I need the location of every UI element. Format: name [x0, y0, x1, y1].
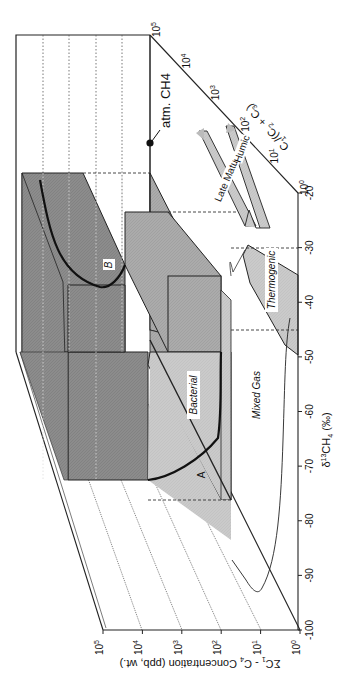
svg-text:ΣC1 - C4 Concentration (ppb, w: ΣC1 - C4 Concentration (ppb, wt.): [120, 656, 281, 670]
bacterial-box-front: [168, 276, 221, 352]
y-tick-label: 102: [211, 640, 223, 655]
y-axis-title: ΣC1 - C4 Concentration (ppb, wt.): [120, 656, 281, 670]
gas-source-diagram: atm. CH4 100101102103104105 C1/(C2 + C3)…: [0, 0, 346, 689]
z-tick-label: 104: [180, 53, 192, 68]
x-tick-label: -100: [304, 620, 315, 640]
label-bacterial: Bacterial: [187, 371, 200, 419]
thermo-box-front-face: [68, 352, 148, 480]
x-axis-ticks: -20-30-40-50-60-70-80-90-100: [298, 185, 315, 640]
y-tick-label: 101: [251, 640, 263, 655]
thermogenic-connector: [230, 250, 245, 276]
thermo-box-right-face: [20, 352, 68, 480]
y-tick-label: 104: [132, 640, 144, 655]
x-axis-title: δ13CH4 (‰): [320, 412, 334, 467]
atm-ch4-leader: [152, 130, 160, 141]
svg-text:B: B: [103, 261, 114, 268]
mixed-gas-curve: [232, 318, 290, 592]
x-tick-label: -60: [304, 404, 315, 419]
thermo-box-mid-face: [68, 285, 125, 352]
atm-ch4-label: atm. CH4: [158, 73, 173, 128]
x-tick-label: -90: [304, 568, 315, 583]
x-tick-label: -30: [304, 240, 315, 255]
z-tick-label: 105: [150, 22, 162, 37]
x-tick-label: -40: [304, 295, 315, 310]
x-tick-label: -50: [304, 349, 315, 364]
y-axis-ticks: 100101102103104105: [93, 630, 302, 655]
svg-text:Thermogenic: Thermogenic: [266, 251, 277, 309]
svg-text:Bacterial: Bacterial: [188, 375, 199, 415]
y-tick-label: 105: [93, 640, 105, 655]
x-tick-label: -20: [304, 185, 315, 200]
late-mature-arrowhead: [196, 128, 204, 140]
z-tick-label: 102: [239, 117, 251, 132]
y-tick-label: 103: [172, 640, 184, 655]
label-curve-b: B: [103, 259, 115, 270]
z-tick-label: 103: [209, 85, 221, 100]
label-thermogenic: Thermogenic: [265, 248, 278, 312]
label-curve-a: A: [196, 471, 207, 478]
svg-text:Mixed Gas: Mixed Gas: [251, 371, 262, 419]
thermogenic-region: [230, 245, 298, 355]
y-tick-label: 100: [290, 640, 302, 655]
x-tick-label: -70: [304, 458, 315, 473]
label-mixed-gas: Mixed Gas: [251, 371, 262, 419]
svg-text:A: A: [196, 471, 207, 478]
bacterial-bottom-strip: [221, 290, 231, 500]
svg-text:δ13CH4 (‰): δ13CH4 (‰): [320, 412, 334, 467]
x-tick-label: -80: [304, 513, 315, 528]
